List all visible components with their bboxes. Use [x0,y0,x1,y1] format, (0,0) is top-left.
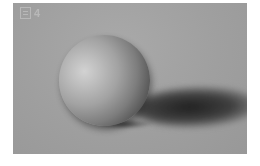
sphere [59,35,150,126]
figure-image: 4 [13,3,247,154]
figure-number: 4 [34,7,40,19]
figure-icon [20,7,31,19]
figure-label: 4 [20,7,40,19]
